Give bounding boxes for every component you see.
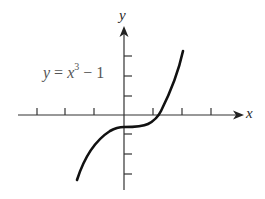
x-axis-label: x (246, 106, 253, 121)
y-axis-label: y (119, 8, 126, 23)
equation-exponent: 3 (74, 61, 79, 72)
equation-equals: = (50, 64, 67, 81)
equation-label: y = x3 − 1 (43, 65, 104, 81)
equation-rest: − 1 (79, 64, 104, 81)
cubic-function-graph (0, 0, 265, 199)
